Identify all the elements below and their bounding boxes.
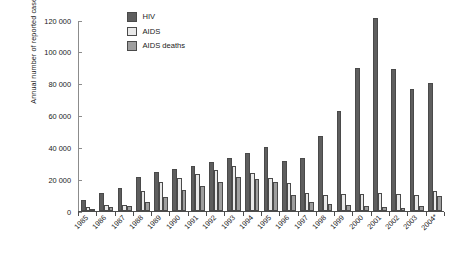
y-tick-label: 100 000 (44, 47, 71, 58)
bar-hiv (355, 68, 360, 211)
bar-group (79, 21, 97, 211)
bar-group (316, 21, 334, 211)
legend-label: HIV (143, 12, 156, 22)
legend-swatch-icon (127, 12, 137, 22)
legend-item-deaths: AIDS deaths (127, 41, 185, 51)
bar-group (353, 21, 371, 211)
bar-deaths (182, 190, 187, 211)
x-label-cell: 2004* (426, 217, 444, 254)
legend-item-aids: AIDS (127, 27, 185, 37)
bar-deaths (109, 207, 114, 211)
legend-label: AIDS (143, 27, 161, 37)
bar-group (225, 21, 243, 211)
bar-deaths (309, 202, 314, 211)
bar-deaths (328, 204, 333, 211)
bar-group (335, 21, 353, 211)
x-axis-labels: 1985198619871988198919901991199219931994… (78, 217, 444, 254)
y-tick-label: 0 (67, 207, 71, 218)
bar-deaths (218, 182, 223, 211)
y-tick-label: 60 000 (48, 111, 71, 122)
bar-hiv (410, 89, 415, 211)
y-tick-label: 80 000 (48, 79, 71, 90)
bar-hiv (391, 69, 396, 211)
bar-deaths (419, 206, 424, 211)
bar-deaths (401, 208, 406, 211)
bar-group (97, 21, 115, 211)
bar-group (298, 21, 316, 211)
bar-chart: Annual number of reported cases 120 0001… (0, 0, 452, 254)
bar-group (371, 21, 389, 211)
legend: HIVAIDSAIDS deaths (127, 12, 185, 51)
bar-hiv (373, 18, 378, 211)
legend-swatch-icon (127, 27, 137, 37)
legend-label: AIDS deaths (143, 41, 186, 51)
bar-deaths (273, 182, 278, 211)
bar-deaths (437, 196, 442, 211)
bar-deaths (291, 195, 296, 211)
bar-group (408, 21, 426, 211)
bar-deaths (382, 207, 387, 211)
y-tick-label: 120 000 (44, 16, 71, 27)
bar-group (389, 21, 407, 211)
bar-deaths (364, 206, 369, 211)
y-tick-label: 20 000 (48, 175, 71, 186)
bar-deaths (163, 197, 168, 211)
bar-deaths (236, 177, 241, 211)
legend-item-hiv: HIV (127, 12, 185, 22)
bar-group (426, 21, 444, 211)
bar-deaths (255, 179, 260, 211)
bar-deaths (145, 202, 150, 211)
bar-group (280, 21, 298, 211)
bar-group (243, 21, 261, 211)
legend-swatch-icon (127, 41, 137, 51)
bar-group (262, 21, 280, 211)
bar-group (207, 21, 225, 211)
bar-deaths (200, 186, 205, 211)
bar-deaths (127, 206, 132, 211)
bar-deaths (346, 205, 351, 211)
bar-deaths (90, 209, 95, 211)
y-tick-label: 40 000 (48, 143, 71, 154)
y-axis-title: Annual number of reported cases (27, 0, 41, 129)
bar-group (189, 21, 207, 211)
